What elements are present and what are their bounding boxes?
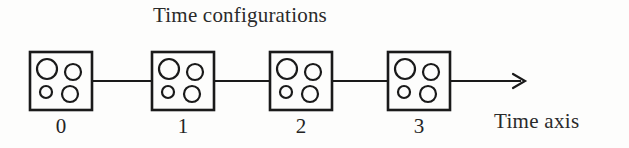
configuration-box-3 — [388, 52, 450, 110]
box-outline — [270, 52, 332, 110]
token-bottom-right — [302, 86, 318, 102]
token-bottom-left — [280, 86, 292, 98]
tick-label-3: 3 — [388, 113, 450, 139]
token-top-left — [277, 59, 297, 79]
tick-label-0: 0 — [30, 113, 92, 139]
tick-label-1: 1 — [152, 113, 214, 139]
token-top-right — [305, 64, 321, 80]
box-outline — [30, 52, 92, 110]
token-bottom-right — [62, 86, 78, 102]
token-bottom-left — [162, 86, 174, 98]
token-bottom-left — [40, 86, 52, 98]
configuration-box-2 — [270, 52, 332, 110]
token-bottom-left — [398, 86, 410, 98]
time-configurations-figure: Time configurations — [0, 0, 629, 148]
token-bottom-right — [184, 86, 200, 102]
box-outline — [152, 52, 214, 110]
configuration-box-1 — [152, 52, 214, 110]
token-top-left — [159, 59, 179, 79]
time-axis-label: Time axis — [494, 108, 579, 134]
token-top-right — [423, 64, 439, 80]
tick-label-2: 2 — [270, 113, 332, 139]
box-outline — [388, 52, 450, 110]
token-top-right — [187, 64, 203, 80]
token-top-left — [37, 59, 57, 79]
token-bottom-right — [420, 86, 436, 102]
time-axis-arrow — [450, 74, 525, 88]
token-top-left — [395, 59, 415, 79]
token-top-right — [65, 64, 81, 80]
configuration-box-0 — [30, 52, 92, 110]
